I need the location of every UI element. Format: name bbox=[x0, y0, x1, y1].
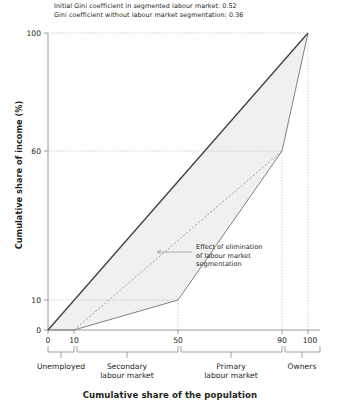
y-tick-label-10: 10 bbox=[31, 296, 41, 305]
group-label-secondary-line1: Secondary bbox=[100, 362, 154, 371]
y-tick-label-0: 0 bbox=[36, 326, 41, 335]
plot-svg bbox=[0, 0, 340, 408]
group-label-unemployed: Unemployed bbox=[37, 362, 85, 371]
group-label-primary-line2: labour market bbox=[204, 371, 258, 380]
group-label-secondary-line2: labour market bbox=[100, 371, 154, 380]
y-tick-label-100: 100 bbox=[27, 29, 42, 38]
annotation-line-1: Effect of elimination bbox=[196, 243, 262, 252]
y-tick-label-60: 60 bbox=[31, 147, 41, 156]
x-tick-label-90: 90 bbox=[277, 336, 287, 345]
group-label-primary-line1: Primary bbox=[204, 362, 258, 371]
lorenz-curve-figure: Initial Gini coefficient in segmented la… bbox=[0, 0, 340, 408]
group-label-owners: Owners bbox=[288, 362, 317, 371]
annotation-line-2: of labour market bbox=[196, 252, 262, 261]
group-label-primary: Primary labour market bbox=[204, 362, 258, 381]
x-tick-label-50: 50 bbox=[173, 336, 183, 345]
group-label-owners-line1: Owners bbox=[288, 362, 317, 371]
group-brackets bbox=[48, 346, 320, 358]
annotation-line-3: segmentation bbox=[196, 260, 262, 269]
x-tick-label-10: 10 bbox=[69, 336, 79, 345]
annotation-effect-of-elimination: Effect of elimination of labour market s… bbox=[196, 243, 262, 269]
x-tick-label-0: 0 bbox=[46, 336, 51, 345]
group-label-unemployed-line1: Unemployed bbox=[37, 362, 85, 371]
x-tick-label-100: 100 bbox=[303, 336, 318, 345]
group-label-secondary: Secondary labour market bbox=[100, 362, 154, 381]
